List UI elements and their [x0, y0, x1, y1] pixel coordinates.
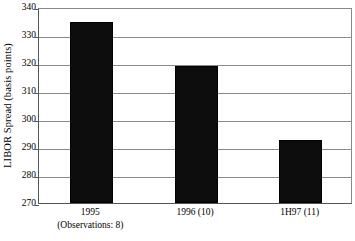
x-axis-tick-label: 1995	[38, 206, 143, 219]
x-axis-tick-labels: 1995(Observations: 8)1996 (10)1H97 (11)	[38, 206, 352, 241]
y-axis-tick-label: 290	[12, 143, 36, 153]
y-axis-tick-label: 310	[12, 87, 36, 97]
y-axis-tick-label: 270	[12, 199, 36, 209]
bars-layer	[39, 9, 351, 203]
x-axis-tick-group: 1995(Observations: 8)	[38, 206, 143, 231]
bar	[279, 140, 322, 203]
x-axis-tick-group: 1H97 (11)	[247, 206, 352, 219]
x-axis-tick-sublabel: (Observations: 8)	[38, 219, 143, 232]
y-axis-tick-label: 280	[12, 171, 36, 181]
bar-chart-figure: LIBOR Spread (basis points) 270280290300…	[0, 0, 355, 241]
bar	[175, 66, 218, 203]
x-axis-tick-label: 1H97 (11)	[247, 206, 352, 219]
y-axis-tick-label: 340	[12, 3, 36, 13]
y-axis-tick-label: 300	[12, 115, 36, 125]
x-axis-tick-label: 1996 (10)	[143, 206, 248, 219]
y-axis-tick-label: 330	[12, 31, 36, 41]
plot-area	[38, 8, 352, 204]
x-axis-tick-group: 1996 (10)	[143, 206, 248, 219]
y-axis-tick-label: 320	[12, 59, 36, 69]
y-axis-title-text: LIBOR Spread (basis points)	[2, 43, 13, 168]
bar	[70, 22, 113, 203]
y-axis-tick-labels: 270280290300310320330340	[12, 0, 36, 210]
